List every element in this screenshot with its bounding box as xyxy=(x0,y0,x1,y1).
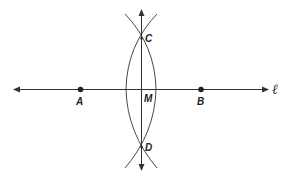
label-b: B xyxy=(197,97,204,107)
arrow-left-icon xyxy=(13,87,20,93)
label-c: C xyxy=(145,34,152,44)
point-d xyxy=(140,146,142,148)
arrow-right-icon xyxy=(262,87,269,93)
label-m: M xyxy=(144,94,152,104)
point-b xyxy=(198,87,204,93)
point-c xyxy=(140,37,142,39)
label-a: A xyxy=(76,97,83,107)
label-line-l: ℓ xyxy=(272,82,278,96)
arrow-up-icon xyxy=(139,9,145,16)
point-a xyxy=(78,87,84,93)
construction-diagram xyxy=(0,0,290,184)
label-d: D xyxy=(145,143,152,153)
arrow-down-icon xyxy=(139,164,145,171)
